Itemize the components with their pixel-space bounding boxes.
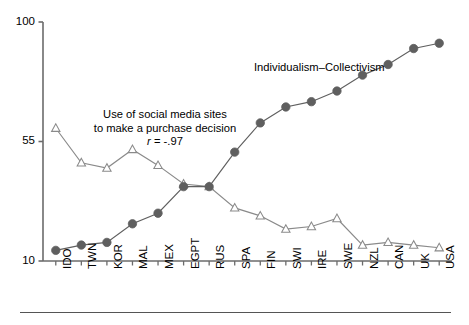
chart-figure: 1055100 IDOTWNKORMALMEXEGPTRUSSPAFINSWII… xyxy=(0,0,469,325)
x-tick-label-ido: IDO xyxy=(61,249,73,269)
annotation-line: Use of social media sites xyxy=(94,108,236,122)
x-tick-label-mal: MAL xyxy=(137,245,149,269)
y-tick-label-100: 100 xyxy=(16,15,35,27)
annotation-line: to make a purchase decision xyxy=(94,122,236,136)
x-tick-label-uk: UK xyxy=(419,253,431,269)
social-media-annotation: Use of social media sitesto make a purch… xyxy=(94,108,236,149)
x-tick-label-usa: USA xyxy=(444,245,456,269)
x-tick-label-twn: TWN xyxy=(86,243,98,269)
footer-divider xyxy=(20,312,451,313)
x-tick-label-egpt: EGPT xyxy=(189,238,201,269)
x-tick-label-swi: SWI xyxy=(291,247,303,269)
y-tick-label-55: 55 xyxy=(22,134,35,146)
chart-plot-area xyxy=(0,0,469,325)
x-tick-label-swe: SWE xyxy=(342,243,354,269)
individualism-series-label: Individualism–Collectivism xyxy=(254,61,385,73)
x-tick-label-ire: IRE xyxy=(316,250,328,269)
x-tick-label-nzl: NZL xyxy=(368,247,380,269)
correlation-symbol: r xyxy=(147,135,151,147)
annotation-correlation: r = -.97 xyxy=(94,135,236,149)
x-tick-label-spa: SPA xyxy=(240,247,252,269)
x-tick-label-fin: FIN xyxy=(265,250,277,269)
x-tick-label-can: CAN xyxy=(393,245,405,269)
x-tick-label-mex: MEX xyxy=(163,244,175,269)
y-tick-label-10: 10 xyxy=(22,254,35,266)
x-tick-label-kor: KOR xyxy=(112,244,124,269)
x-tick-label-rus: RUS xyxy=(214,245,226,269)
